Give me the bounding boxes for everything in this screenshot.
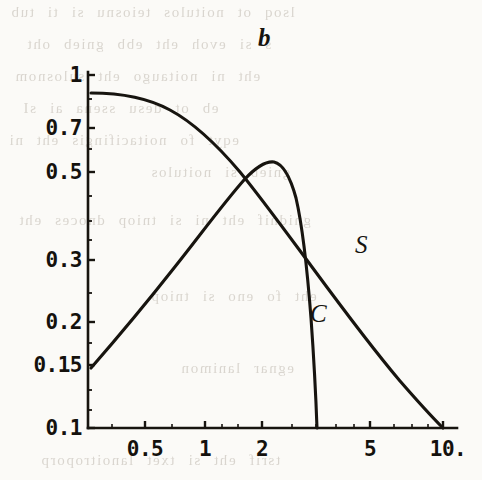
figure-page: lsoq ot noitulos teiosnu si ti tub s si … (0, 0, 482, 480)
x-tick-label: 5 (364, 437, 376, 461)
x-tick-label: 10. (430, 437, 466, 461)
y-tick-label: 0.15 (6, 353, 82, 377)
axes (88, 72, 457, 428)
x-tick-label: 2 (256, 437, 268, 461)
log-log-plot: b S C 1 0.7 0.5 0.3 0.2 0.15 0.1 0.5 1 2… (0, 0, 482, 480)
y-tick-label: 1 (6, 63, 82, 87)
curve-label-c: C (310, 300, 327, 328)
y-tick-label: 0.3 (6, 248, 82, 272)
y-tick-label: 0.7 (6, 116, 82, 140)
y-tick-label: 0.2 (6, 310, 82, 334)
y-axis-title: b (258, 24, 271, 52)
y-tick-label: 0.5 (6, 160, 82, 184)
x-tick-label: 1 (199, 437, 211, 461)
curve-label-s: S (355, 231, 368, 259)
curve-s (91, 93, 443, 428)
x-tick-label: 0.5 (127, 437, 163, 461)
y-tick-label: 0.1 (6, 416, 82, 440)
curve-c (91, 162, 317, 428)
